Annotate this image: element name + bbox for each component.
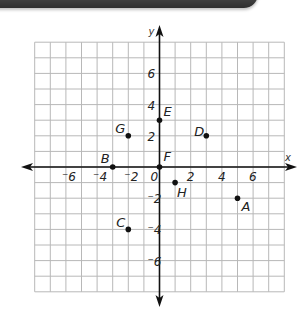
x-tick-label: 2 bbox=[187, 170, 195, 184]
point-label-d: D bbox=[194, 124, 204, 139]
point-g bbox=[126, 133, 132, 139]
y-axis-label: y bbox=[148, 26, 156, 37]
x-tick-label: ⁻6 bbox=[62, 170, 76, 184]
point-b bbox=[110, 164, 116, 170]
y-tick-label: ⁻6 bbox=[148, 255, 162, 269]
x-tick-label: 6 bbox=[249, 170, 257, 184]
point-label-e: E bbox=[164, 104, 173, 119]
x-tick-label: 0 bbox=[151, 170, 159, 184]
point-label-a: A bbox=[241, 199, 251, 214]
x-axis-label: x bbox=[284, 152, 291, 163]
x-tick-label: ⁻2 bbox=[124, 170, 138, 184]
y-tick-label: 4 bbox=[148, 99, 156, 113]
point-label-c: C bbox=[116, 215, 126, 230]
point-a bbox=[235, 195, 241, 201]
y-tick-label: ⁻4 bbox=[148, 223, 162, 237]
y-tick-label: 6 bbox=[148, 67, 156, 81]
x-tick-label: ⁻4 bbox=[93, 170, 107, 184]
point-f bbox=[157, 164, 163, 170]
point-c bbox=[126, 227, 132, 233]
point-e bbox=[157, 117, 163, 123]
coordinate-plane: xy⁻6⁻4⁻20246642⁻2⁻4⁻6ABCDEFGH bbox=[0, 0, 307, 326]
point-label-b: B bbox=[101, 151, 110, 166]
x-tick-label: 4 bbox=[218, 170, 226, 184]
y-tick-label: ⁻2 bbox=[148, 192, 162, 206]
point-d bbox=[204, 133, 210, 139]
point-label-h: H bbox=[177, 185, 187, 200]
point-label-f: F bbox=[164, 149, 172, 164]
point-label-g: G bbox=[115, 121, 125, 136]
y-tick-label: 2 bbox=[148, 130, 156, 144]
